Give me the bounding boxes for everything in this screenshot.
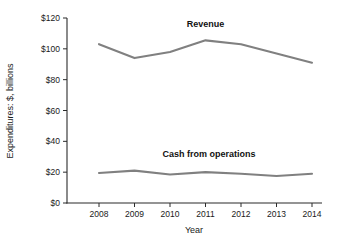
y-tick-label: $20 xyxy=(46,167,60,177)
x-tick-label: 2009 xyxy=(125,209,144,219)
y-axis-ticks: $0$20$40$60$80$100$120 xyxy=(41,13,67,208)
y-tick-label: $60 xyxy=(46,106,60,116)
x-tick-label: 2014 xyxy=(303,209,322,219)
x-tick-label: 2010 xyxy=(161,209,180,219)
y-tick-label: $0 xyxy=(51,198,61,208)
x-tick-label: 2013 xyxy=(267,209,286,219)
y-tick-label: $40 xyxy=(46,136,60,146)
y-tick-label: $80 xyxy=(46,75,60,85)
series-line-cash-from-operations xyxy=(99,171,312,176)
series-label-cash-from-operations: Cash from operations xyxy=(163,149,256,159)
y-axis-title: Expenditures: $, billions xyxy=(5,63,15,159)
x-axis-title: Year xyxy=(185,225,203,235)
x-tick-label: 2011 xyxy=(196,209,215,219)
x-tick-label: 2008 xyxy=(90,209,109,219)
y-tick-label: $120 xyxy=(41,13,60,23)
chart-canvas: $0$20$40$60$80$100$120 20082009201020112… xyxy=(0,0,347,243)
y-tick-label: $100 xyxy=(41,44,60,54)
series-label-revenue: Revenue xyxy=(187,19,225,29)
x-tick-label: 2012 xyxy=(232,209,251,219)
line-chart: $0$20$40$60$80$100$120 20082009201020112… xyxy=(0,0,347,243)
x-axis-ticks: 2008200920102011201220132014 xyxy=(90,203,322,219)
series-line-revenue xyxy=(99,40,312,62)
